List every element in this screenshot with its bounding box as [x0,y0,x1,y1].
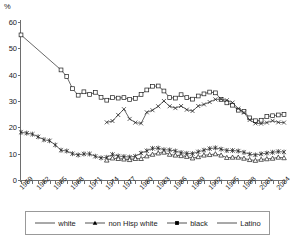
y-tick-label: 10 [0,149,17,158]
y-tick-label: 20 [0,123,17,132]
legend-label: Latino [240,219,260,228]
y-tick-label: 0 [0,176,17,185]
triangle-marker-icon [84,217,106,229]
series-layer [0,0,295,245]
chart-legend: whitenon Hisp whiteblackLatino [25,211,270,235]
x-tick-mark [50,181,51,184]
y-axis-unit-label: % [4,2,11,11]
legend-item-latino[interactable]: Latino [216,217,260,229]
y-tick-mark [18,75,21,76]
x-tick-mark [153,181,154,184]
y-tick-label: 30 [0,97,17,106]
y-tick-mark [18,48,21,49]
y-tick-label: 60 [0,18,17,27]
y-tick-mark [18,127,21,128]
y-tick-mark [18,22,21,23]
y-tick-mark [18,154,21,155]
series-black [19,33,286,123]
x-tick-mark [187,181,188,184]
square-marker-icon [166,217,188,229]
x-tick-label: 2004 [275,175,291,191]
x-tick-mark [170,181,171,184]
series-latino [105,97,286,125]
y-tick-label: 40 [0,70,17,79]
x-tick-mark [255,181,256,184]
cross-marker-icon [216,217,238,229]
chart-container: % 0102030405060 195919621965196819711974… [0,0,295,245]
legend-item-black[interactable]: black [166,217,208,229]
x-tick-mark [273,181,274,184]
x-tick-mark [135,181,136,184]
asterisk-marker-icon [34,217,56,229]
legend-label: white [58,219,76,228]
series-non-hisp-white [104,150,286,162]
x-tick-mark [32,181,33,184]
y-tick-label: 50 [0,44,17,53]
legend-item-white[interactable]: white [34,217,76,229]
x-tick-mark [84,181,85,184]
x-tick-mark [67,181,68,184]
legend-label: non Hisp white [108,219,157,228]
legend-label: black [190,219,208,228]
series-white [19,130,286,161]
y-tick-mark [18,101,21,102]
legend-item-non-hisp-white[interactable]: non Hisp white [84,217,157,229]
